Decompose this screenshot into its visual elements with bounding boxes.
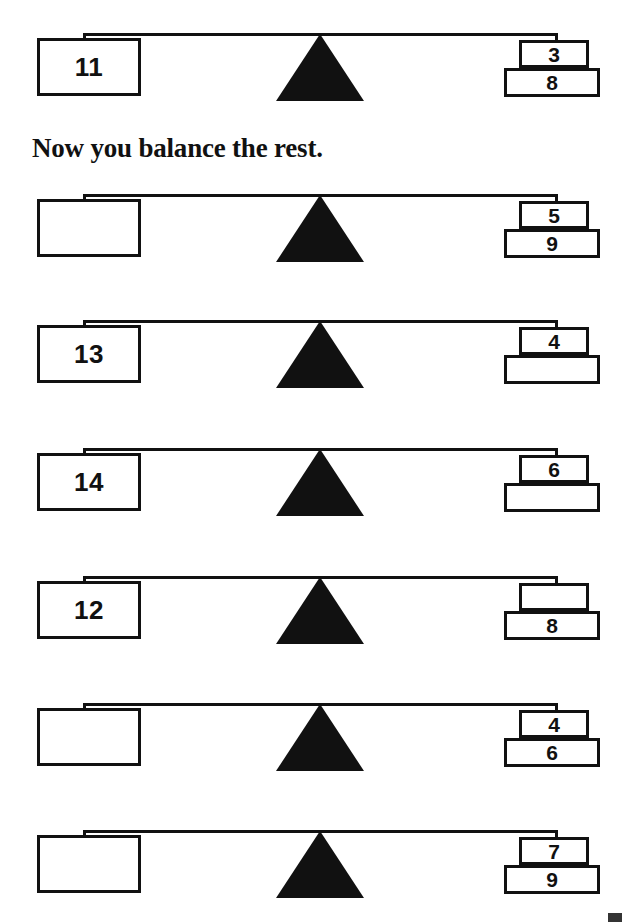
balance-scale-row-2: 13 4 [0,320,624,430]
right-pan-top-box[interactable]: 5 [519,201,589,229]
left-pan-box[interactable] [37,199,141,257]
right-pan-bottom-box[interactable]: 8 [504,611,600,640]
right-pan-top-box[interactable]: 7 [519,837,589,865]
right-pan-top-box[interactable]: 4 [519,327,589,355]
left-pan-box[interactable]: 13 [37,325,141,383]
right-pan-top-box[interactable]: 6 [519,455,589,483]
right-pan-bottom-box[interactable]: 6 [504,738,600,767]
right-pan-bottom-box[interactable] [504,355,600,384]
balance-scale-row-3: 14 6 [0,448,624,558]
fulcrum-triangle-icon [276,449,364,516]
instruction-heading: Now you balance the rest. [32,132,323,164]
fulcrum-triangle-icon [276,704,364,771]
right-pan-bottom-box[interactable]: 9 [504,865,600,894]
left-pan-box[interactable]: 14 [37,453,141,511]
right-pan-bottom-box[interactable] [504,483,600,512]
right-pan-top-box[interactable]: 3 [519,40,589,68]
right-pan-top-box[interactable] [519,583,589,611]
left-pan-box[interactable]: 12 [37,581,141,639]
left-pan-box[interactable]: 11 [37,38,141,96]
page-number-artifact [608,913,622,922]
fulcrum-triangle-icon [276,577,364,644]
balance-scale-row-1: 5 9 [0,194,624,304]
fulcrum-triangle-icon [276,321,364,388]
balance-scale-row-4: 12 8 [0,576,624,686]
left-pan-box[interactable] [37,708,141,766]
right-pan-bottom-box[interactable]: 8 [504,68,600,97]
fulcrum-triangle-icon [276,34,364,101]
right-pan-top-box[interactable]: 4 [519,710,589,738]
fulcrum-triangle-icon [276,831,364,898]
left-pan-box[interactable] [37,835,141,893]
worksheet-page: 11 3 8 Now you balance the rest. 5 9 13 … [0,0,624,924]
balance-scale-row-5: 4 6 [0,703,624,813]
fulcrum-triangle-icon [276,195,364,262]
balance-scale-example: 11 3 8 [0,33,624,143]
balance-scale-row-6: 7 9 [0,830,624,924]
right-pan-bottom-box[interactable]: 9 [504,229,600,258]
